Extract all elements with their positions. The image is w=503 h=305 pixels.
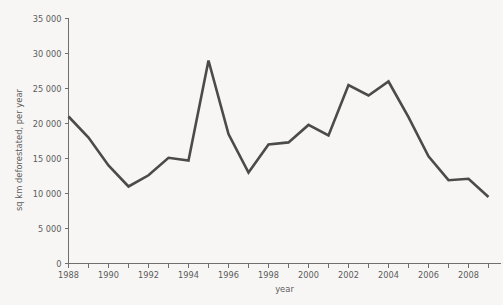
x-tick-label: 2002: [338, 270, 359, 280]
y-axis-ticks: [65, 19, 69, 264]
y-tick-label: 25 000: [33, 84, 62, 94]
x-tick-label: 2004: [378, 270, 399, 280]
x-tick-label: 2006: [418, 270, 439, 280]
y-axis-tick-labels: 05 00010 00015 00020 00025 00030 00035 0…: [33, 14, 62, 269]
x-tick-label: 1992: [138, 270, 159, 280]
chart-plot-area: 05 00010 00015 00020 00025 00030 00035 0…: [0, 0, 503, 305]
x-tick-label: 1988: [58, 270, 79, 280]
x-tick-label: 2000: [298, 270, 319, 280]
deforestation-series-line: [69, 61, 489, 198]
y-tick-label: 5 000: [38, 224, 61, 234]
deforestation-line-chart: 05 00010 00015 00020 00025 00030 00035 0…: [0, 0, 503, 305]
y-tick-label: 15 000: [33, 154, 62, 164]
x-tick-label: 1996: [218, 270, 239, 280]
x-tick-label: 1994: [178, 270, 199, 280]
y-tick-label: 0: [56, 259, 61, 269]
y-axis-group: 05 00010 00015 00020 00025 00030 00035 0…: [33, 14, 69, 269]
x-tick-label: 1998: [258, 270, 279, 280]
x-axis-ticks: [69, 264, 489, 268]
y-tick-label: 20 000: [33, 119, 62, 129]
y-tick-label: 10 000: [33, 189, 62, 199]
x-axis-title: year: [275, 284, 294, 294]
y-tick-label: 35 000: [33, 14, 62, 24]
x-tick-label: 2008: [458, 270, 479, 280]
x-tick-label: 1990: [98, 270, 119, 280]
x-axis-tick-labels: 1988199019921994199619982000200220042006…: [58, 270, 479, 280]
y-tick-label: 30 000: [33, 49, 62, 59]
x-axis-group: 1988199019921994199619982000200220042006…: [58, 264, 500, 280]
y-axis-title: sq km deforestated, per year: [14, 88, 24, 211]
